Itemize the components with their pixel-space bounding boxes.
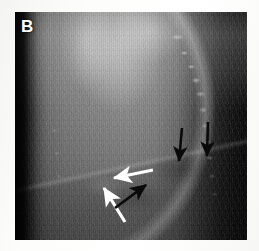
white-arrow-diagonal (104, 188, 125, 222)
white-arrow-horizontal (114, 170, 153, 178)
black-arrow-diagonal (115, 185, 146, 208)
black-arrow-down-1 (179, 128, 182, 161)
radiograph-panel: B (15, 12, 247, 240)
annotation-overlay (15, 12, 247, 240)
figure-container: B (0, 0, 259, 251)
black-arrow-down-2 (207, 122, 208, 156)
